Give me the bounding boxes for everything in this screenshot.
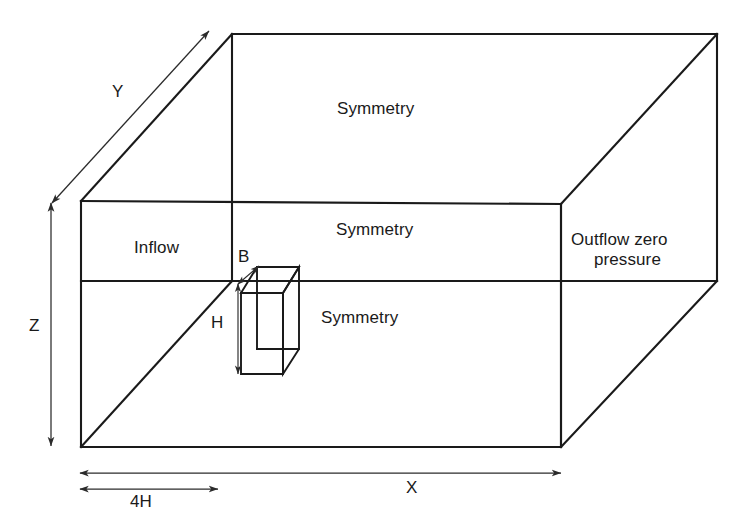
right-face-bottom-edge [561,281,717,447]
label-ground-symmetry: Symmetry [321,308,398,328]
building-front-face [241,293,283,374]
top-face-right-edge [561,34,717,204]
front-face-top-edge [81,201,561,204]
building-right-face [283,267,299,374]
label-y-axis: Y [112,82,123,102]
top-face-left-edge [81,34,232,201]
label-upstream-fetch: 4H [130,492,152,512]
ground-left-diagonal-edge [81,281,232,447]
label-inflow: Inflow [134,238,179,258]
y-axis-arrow [52,31,209,203]
domain-ground-plane [81,281,717,447]
label-top-symmetry: Symmetry [337,99,414,119]
diagram-canvas: Symmetry Symmetry Symmetry Inflow Outflo… [0,0,752,532]
label-outflow-line1: Outflow zero [571,230,668,250]
domain-inner-division [232,34,561,447]
building-obstacle [241,267,299,374]
label-x-axis: X [406,478,417,498]
domain-top-face [81,34,717,204]
label-building-width: B [238,247,249,267]
label-z-axis: Z [29,316,39,336]
label-back-symmetry: Symmetry [336,220,413,240]
label-building-height: H [211,313,223,333]
label-outflow-line2: pressure [594,250,661,270]
